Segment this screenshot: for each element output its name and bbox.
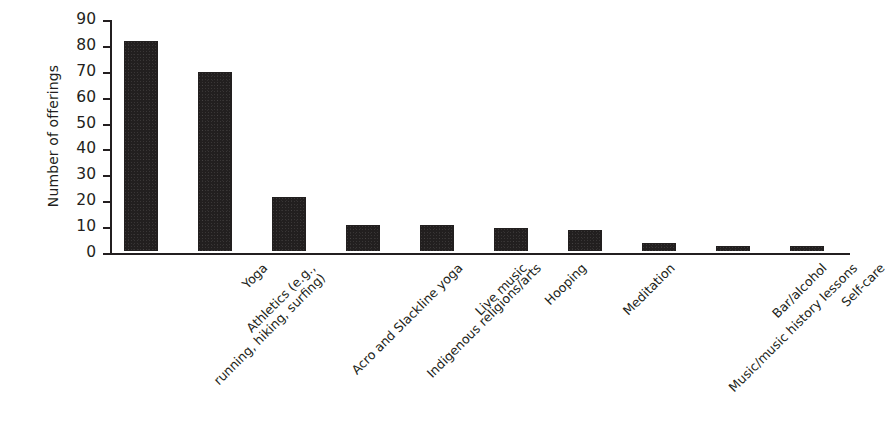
- y-tick-label-70: 70: [54, 64, 96, 80]
- x-axis-label-line: Hooping: [542, 260, 590, 308]
- bar: [198, 72, 232, 251]
- y-tick-label-30: 30: [54, 167, 96, 183]
- y-tick-20: [103, 201, 110, 203]
- bar: [124, 41, 158, 251]
- plot-area: 0102030405060708090: [110, 20, 850, 253]
- y-tick-10: [103, 227, 110, 229]
- y-tick-90: [103, 20, 110, 22]
- y-tick-label-60: 60: [54, 90, 96, 106]
- y-tick-50: [103, 124, 110, 126]
- x-axis-line: [110, 253, 850, 255]
- x-axis-label: Music/music history lessons: [726, 261, 860, 395]
- y-tick-0: [103, 253, 110, 255]
- bar: [272, 197, 306, 251]
- x-axis-label: Meditation: [621, 261, 678, 318]
- y-tick-label-50: 50: [54, 116, 96, 132]
- x-axis-label: Athletics (e.g.,running, hiking, surfing…: [201, 261, 327, 387]
- bar: [716, 246, 750, 251]
- bar: [494, 228, 528, 251]
- y-axis-title: Number of offerings: [45, 21, 61, 251]
- y-tick-80: [103, 46, 110, 48]
- bar: [568, 230, 602, 251]
- bar: [420, 225, 454, 251]
- y-tick-label-20: 20: [54, 193, 96, 209]
- bar: [346, 225, 380, 251]
- y-tick-label-0: 0: [54, 245, 96, 261]
- y-axis-line: [110, 20, 112, 254]
- y-tick-label-40: 40: [54, 141, 96, 157]
- y-tick-label-80: 80: [54, 38, 96, 54]
- y-tick-label-90: 90: [54, 12, 96, 28]
- y-tick-70: [103, 72, 110, 74]
- y-tick-label-10: 10: [54, 219, 96, 235]
- y-tick-60: [103, 98, 110, 100]
- x-axis-label-line: Yoga: [239, 260, 270, 291]
- y-tick-40: [103, 149, 110, 151]
- x-axis-label: Yoga: [240, 261, 270, 291]
- bar: [642, 243, 676, 251]
- bar: [790, 246, 824, 251]
- x-axis-label-line: Meditation: [620, 260, 678, 318]
- x-axis-label: Hooping: [542, 261, 589, 308]
- x-axis-label-line: Music/music history lessons: [726, 260, 861, 395]
- x-axis-label-line: running, hiking, surfing): [211, 271, 328, 388]
- y-tick-30: [103, 175, 110, 177]
